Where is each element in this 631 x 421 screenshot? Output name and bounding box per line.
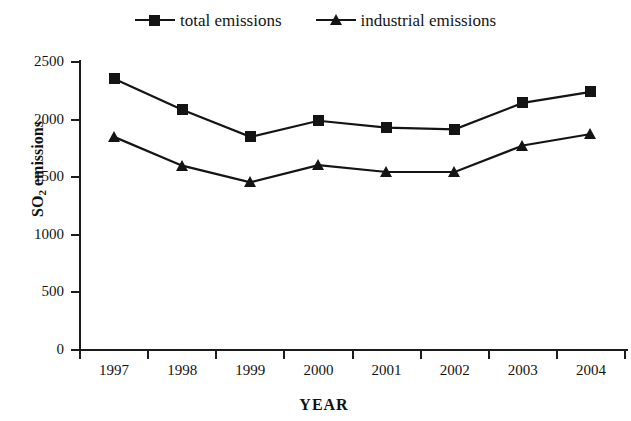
data-point-marker: [176, 160, 188, 171]
data-point-marker: [449, 124, 460, 135]
data-point-marker: [177, 104, 188, 115]
data-point-marker: [585, 86, 596, 97]
data-point-marker: [516, 140, 528, 151]
data-point-marker: [584, 128, 596, 139]
data-point-marker: [244, 176, 256, 187]
x-axis-title: YEAR: [79, 396, 569, 414]
data-point-marker: [108, 131, 120, 142]
series-polylines: [0, 0, 631, 421]
data-point-marker: [109, 73, 120, 84]
data-point-marker: [448, 166, 460, 177]
so2-emissions-line-chart: total emissions industrial emissions SO2…: [0, 0, 631, 421]
data-point-marker: [245, 131, 256, 142]
data-point-marker: [380, 166, 392, 177]
data-point-marker: [312, 159, 324, 170]
data-point-marker: [381, 122, 392, 133]
data-point-marker: [517, 97, 528, 108]
data-point-marker: [313, 115, 324, 126]
